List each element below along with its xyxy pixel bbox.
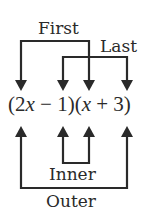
expr-var2: x [82, 92, 91, 116]
first-connector [21, 41, 89, 82]
arrow-up-icon [83, 126, 95, 137]
arrow-up-icon [15, 126, 27, 137]
arrow-down-icon [15, 80, 27, 91]
arrow-down-icon [121, 80, 133, 91]
expr-open: ( [8, 92, 15, 116]
expr-op1: − 1)( [35, 92, 82, 116]
label-last: Last [100, 38, 137, 55]
inner-connector [63, 135, 89, 163]
label-inner: Inner [49, 166, 96, 183]
arrow-up-icon [57, 126, 69, 137]
arrow-up-icon [121, 126, 133, 137]
label-first: First [38, 20, 79, 37]
label-outer: Outer [46, 193, 96, 210]
arrow-down-icon [83, 80, 95, 91]
expression: (2x − 1)(x + 3) [8, 94, 131, 115]
foil-diagram: First Last (2x − 1)(x + 3) Inner Outer [0, 0, 146, 222]
arrow-down-icon [57, 80, 69, 91]
last-connector [63, 57, 127, 82]
expr-var1: x [26, 92, 35, 116]
expr-coef: 2 [15, 92, 26, 116]
expr-op2: + 3) [91, 92, 131, 116]
